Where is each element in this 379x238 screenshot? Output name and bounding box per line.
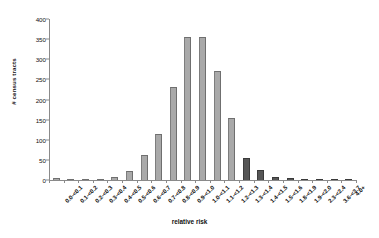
x-tick-mark [166,180,167,183]
bar [155,134,162,180]
x-tick-mark [107,180,108,183]
bar [111,177,118,180]
y-tick-label: 0 [20,177,46,184]
x-tick-mark [122,180,123,183]
bar-slot [239,19,254,180]
bar-slot [151,19,166,180]
bar [214,71,221,180]
x-tick-mark [341,180,342,183]
bar-slot [122,19,137,180]
bar-slot [312,19,327,180]
x-tick-mark [254,180,255,183]
bar-slot [224,19,239,180]
bar-slot [49,19,64,180]
plot-area: 050100150200250300350400 [49,19,356,180]
x-tick-mark [312,180,313,183]
bar-slot [93,19,108,180]
y-tick-label: 400 [20,16,46,23]
x-tick-mark [137,180,138,183]
histogram-chart: # census tracts 050100150200250300350400… [0,0,379,238]
x-tick-mark [268,180,269,183]
x-tick-mark [298,180,299,183]
bar [257,170,264,180]
bar-series [49,19,356,180]
bar-slot [181,19,196,180]
x-tick-mark [283,180,284,183]
bar-slot [254,19,269,180]
bar [184,37,191,180]
y-tick-label: 100 [20,136,46,143]
x-tick-mark [239,180,240,183]
bar [345,179,352,180]
y-tick-label: 350 [20,36,46,43]
bar [287,178,294,180]
x-tick-mark [64,180,65,183]
x-tick-mark [195,180,196,183]
bar-slot [137,19,152,180]
bar-slot [195,19,210,180]
x-axis-title: relative risk [0,218,379,225]
x-tick-mark [151,180,152,183]
bar [331,179,338,180]
bar [170,87,177,180]
y-tick-label: 50 [20,156,46,163]
bar [82,179,89,180]
bar [53,178,60,180]
x-tick-mark [78,180,79,183]
x-tick-mark [224,180,225,183]
bar [126,171,133,180]
y-tick-label: 300 [20,56,46,63]
x-tick-mark [49,180,50,183]
bar-slot [166,19,181,180]
bar [67,179,74,180]
bar [199,37,206,180]
bar-slot [268,19,283,180]
bar [97,179,104,180]
bar-slot [298,19,313,180]
bar-slot [210,19,225,180]
bar-slot [78,19,93,180]
x-tick-mark [356,180,357,183]
y-axis-title: # census tracts [10,42,17,122]
y-tick-label: 250 [20,76,46,83]
bar [243,158,250,180]
bar-slot [341,19,356,180]
bar [228,118,235,180]
y-tick-label: 200 [20,96,46,103]
bar [141,155,148,180]
x-tick-mark [210,180,211,183]
bar-slot [283,19,298,180]
y-tick-label: 150 [20,116,46,123]
bar [272,177,279,180]
bar [301,179,308,180]
x-tick-mark [93,180,94,183]
bar-slot [327,19,342,180]
bar-slot [107,19,122,180]
x-axis-line [49,180,356,181]
x-tick-mark [327,180,328,183]
bar-slot [64,19,79,180]
x-tick-mark [181,180,182,183]
bar [316,179,323,180]
